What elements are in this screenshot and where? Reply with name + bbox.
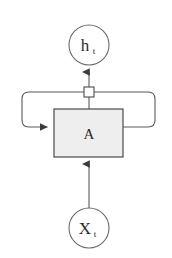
input-node: X t [69, 208, 109, 248]
output-node: h t [69, 25, 109, 65]
cell-label: A [84, 126, 95, 142]
cell-node: A [54, 109, 123, 157]
input-label: X [79, 219, 91, 238]
branch-square-icon [84, 87, 94, 97]
rnn-diagram: A h t X t [0, 0, 172, 258]
branch-node [84, 87, 94, 97]
output-label: h [81, 36, 90, 55]
rnn-diagram-canvas: A h t X t [0, 0, 172, 258]
